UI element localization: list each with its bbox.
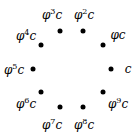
label-suffix: c (121, 97, 128, 111)
point-label: φ7c (42, 118, 62, 131)
label-suffix: c (29, 97, 36, 111)
point-dot (101, 43, 106, 48)
point-label: c (125, 63, 132, 75)
label-suffix: c (87, 118, 94, 132)
point-label: φ6c (16, 97, 36, 110)
point-label: φ3c (42, 8, 62, 21)
label-suffix: c (29, 29, 36, 43)
point-dot (31, 67, 36, 72)
point-dot (39, 90, 44, 95)
point-dot (39, 43, 44, 48)
point-label: φ4c (16, 29, 36, 42)
point-dot (58, 105, 63, 110)
point-label: φ9c (108, 97, 128, 110)
label-suffix: c (55, 118, 62, 132)
label-suffix: c (55, 8, 62, 22)
label-suffix: c (125, 62, 132, 76)
point-label: φc (110, 29, 125, 41)
label-suffix: c (119, 28, 126, 42)
point-label: φ5c (4, 63, 24, 76)
point-label: φ8c (74, 118, 94, 131)
point-dot (101, 90, 106, 95)
point-dot (109, 67, 114, 72)
point-dot (58, 29, 63, 34)
point-dot (81, 105, 86, 110)
label-suffix: c (87, 8, 94, 22)
point-dot (81, 29, 86, 34)
label-suffix: c (17, 63, 24, 77)
point-label: φ2c (74, 8, 94, 21)
orbit-diagram: cφcφ2cφ3cφ4cφ5cφ6cφ7cφ8cφ9c (0, 0, 136, 137)
